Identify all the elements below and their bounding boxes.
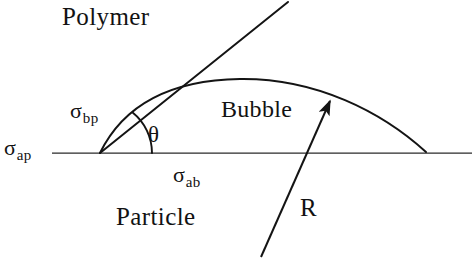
radius-arrow: [261, 101, 330, 257]
sigma-ap-symbol: σ: [4, 135, 16, 160]
label-sigma-ab: σab: [173, 164, 201, 190]
sigma-ab-subscript: ab: [185, 174, 201, 190]
label-polymer: Polymer: [62, 4, 150, 29]
sigma-ab-symbol: σ: [173, 162, 185, 187]
label-radius: R: [300, 195, 317, 220]
label-theta: θ: [148, 123, 159, 146]
sigma-bp-symbol: σ: [70, 98, 82, 123]
label-sigma-ap: σap: [4, 137, 32, 163]
sigma-ap-subscript: ap: [16, 147, 32, 163]
contact-angle-diagram: Polymer σbp θ Bubble σap σab Particle R: [0, 0, 474, 261]
label-particle: Particle: [116, 204, 196, 229]
label-sigma-bp: σbp: [70, 100, 98, 126]
sigma-bp-subscript: bp: [82, 110, 99, 126]
label-bubble: Bubble: [221, 97, 292, 121]
diagram-canvas: [0, 0, 474, 261]
